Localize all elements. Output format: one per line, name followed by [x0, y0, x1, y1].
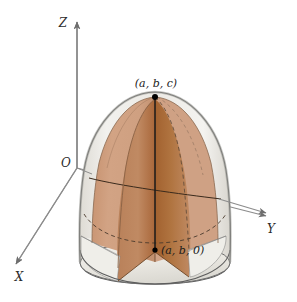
x-axis-front-segment: [16, 168, 77, 264]
apex-point-dot: [152, 94, 158, 100]
x-axis-label: X: [14, 270, 24, 284]
apex-point-label: (a, b, c): [135, 77, 177, 90]
figure-root: Z Y X O (a, b, c) (a, b, 0): [0, 0, 297, 302]
y-axis-label: Y: [267, 222, 276, 236]
z-axis-label: Z: [58, 16, 68, 30]
origin-label: O: [61, 156, 71, 170]
paraboloid-solid: [79, 92, 230, 284]
paraboloid-diagram: Z Y X O (a, b, c) (a, b, 0): [0, 0, 297, 302]
base-point-dot: [152, 247, 157, 252]
base-point-label: (a, b, 0): [161, 244, 204, 257]
